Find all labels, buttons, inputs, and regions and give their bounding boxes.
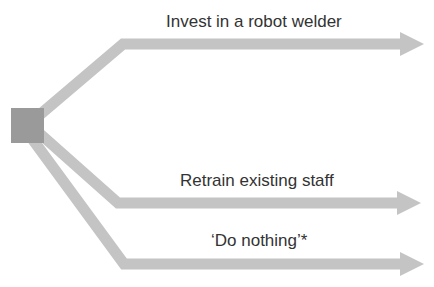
branch-label-retrain-staff: Retrain existing staff xyxy=(180,171,334,191)
arrowhead-icon xyxy=(400,32,424,56)
branch-label-invest-robot-welder: Invest in a robot welder xyxy=(166,12,342,32)
arrowhead-icon xyxy=(400,252,424,276)
decision-node-square xyxy=(11,108,44,143)
arrowhead-icon xyxy=(397,191,421,215)
branch-label-do-nothing: ‘Do nothing’* xyxy=(211,231,307,251)
branch-invest-robot-welder xyxy=(36,32,424,118)
